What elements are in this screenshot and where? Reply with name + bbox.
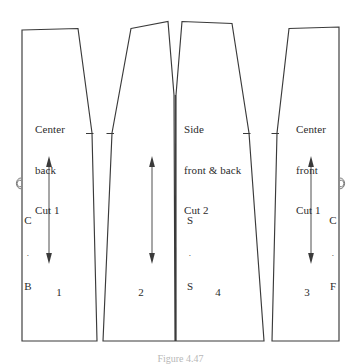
edge-code-side-seam: S . S bbox=[183, 190, 197, 316]
edge-code-side-seam-top: S bbox=[183, 214, 197, 226]
edge-code-center-front-top: C bbox=[326, 214, 340, 226]
fold-symbol-center-front bbox=[340, 178, 345, 189]
piece-label-side-front-back-line2: front & back bbox=[184, 164, 241, 178]
edge-code-center-front: C . F bbox=[326, 190, 340, 316]
piece-label-center-back: Center back Cut 1 bbox=[35, 96, 65, 245]
piece-label-center-back-line2: back bbox=[35, 164, 65, 178]
edge-code-center-back: C . B bbox=[21, 190, 35, 316]
piece-label-center-front: Center front Cut 1 bbox=[296, 96, 326, 245]
piece-label-center-front-line2: front bbox=[296, 164, 326, 178]
piece-number-2: 2 bbox=[134, 286, 148, 300]
piece-label-side-front-back-line1: Side bbox=[184, 123, 241, 137]
piece-label-center-front-line3: Cut 1 bbox=[296, 204, 326, 218]
figure-caption: Figure 4.47 bbox=[0, 353, 361, 364]
piece-number-4: 4 bbox=[211, 286, 225, 300]
piece-label-center-back-line3: Cut 1 bbox=[35, 204, 65, 218]
edge-code-center-back-top: C bbox=[21, 214, 35, 226]
edge-code-center-back-bottom: B bbox=[21, 280, 35, 292]
edge-code-center-front-dot: . bbox=[326, 250, 340, 256]
piece-label-center-back-line1: Center bbox=[35, 123, 65, 137]
edge-code-center-back-dot: . bbox=[21, 250, 35, 256]
edge-code-side-seam-bottom: S bbox=[183, 280, 197, 292]
edge-code-side-seam-dot: . bbox=[183, 250, 197, 256]
edge-code-center-front-bottom: F bbox=[326, 280, 340, 292]
piece-label-center-front-line1: Center bbox=[296, 123, 326, 137]
fold-symbol-center-back bbox=[16, 178, 21, 189]
piece-number-1: 1 bbox=[52, 286, 66, 300]
piece-number-3: 3 bbox=[300, 286, 314, 300]
